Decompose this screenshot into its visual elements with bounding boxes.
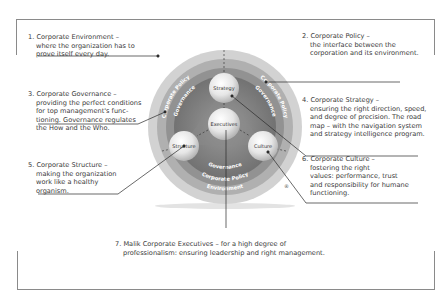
item-corporate-structure: 5. Corporate Structure – making the orga…: [28, 161, 158, 195]
svg-text:Culture: Culture: [254, 143, 272, 149]
item-corporate-governance: 3. Corporate Governance – providing the …: [28, 90, 178, 133]
culture-ball: Culture: [248, 131, 278, 161]
strategy-ball: Strategy: [209, 73, 239, 103]
item-corporate-executives: 7. Malik Corporate Executives – for a hi…: [115, 240, 355, 257]
registered-mark: ®: [284, 183, 289, 189]
item-corporate-environment: 1. Corporate Environment – where the org…: [28, 33, 188, 59]
item-corporate-culture: 6. Corporate Culture – fostering the rig…: [302, 155, 448, 198]
item-corporate-policy: 2. Corporate Policy – the interface betw…: [302, 32, 442, 58]
svg-text:Executives: Executives: [211, 121, 238, 127]
item-corporate-strategy: 4. Corporate Strategy – ensuring the rig…: [302, 96, 448, 139]
svg-text:Strategy: Strategy: [213, 85, 234, 92]
executives-ball: Executives: [208, 108, 240, 140]
